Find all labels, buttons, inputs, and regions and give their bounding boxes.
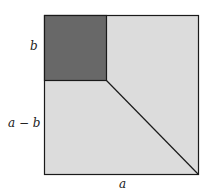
- label-b: b: [30, 39, 38, 53]
- label-a: a: [119, 177, 126, 191]
- inner-square-b: [45, 16, 107, 81]
- square-diagram: b a − b a: [0, 0, 209, 196]
- label-a-minus-b: a − b: [8, 116, 41, 130]
